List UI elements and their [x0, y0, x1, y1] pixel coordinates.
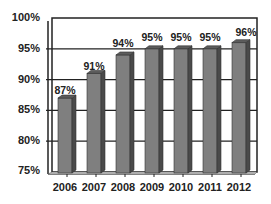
bar-2010 [174, 46, 192, 173]
bar-2006 [58, 95, 76, 173]
bar-2009 [145, 46, 163, 173]
chart: 100% 95% 90% 85% 80% 75% 2006 2007 2008 … [0, 0, 271, 204]
y-tick-label: 100% [4, 11, 40, 23]
bar-2012 [232, 40, 250, 173]
data-label: 95% [193, 31, 227, 43]
x-tick-label: 2006 [50, 181, 80, 193]
data-label: 96% [229, 26, 263, 38]
x-tick-label: 2008 [108, 181, 138, 193]
x-tick-label: 2009 [137, 181, 167, 193]
x-tick-label: 2012 [224, 181, 254, 193]
y-tick-label: 80% [4, 134, 40, 146]
y-tick-label: 90% [4, 73, 40, 85]
y-tick-label: 75% [4, 164, 40, 176]
data-label: 87% [48, 84, 82, 96]
y-tick-label: 85% [4, 103, 40, 115]
x-tick-label: 2011 [195, 181, 225, 193]
bar-2008 [116, 52, 134, 173]
bar-2011 [203, 46, 221, 173]
x-tick-label: 2010 [166, 181, 196, 193]
bar-2007 [87, 70, 105, 173]
y-tick-label: 95% [4, 42, 40, 54]
data-label: 91% [77, 60, 111, 72]
x-tick-label: 2007 [79, 181, 109, 193]
